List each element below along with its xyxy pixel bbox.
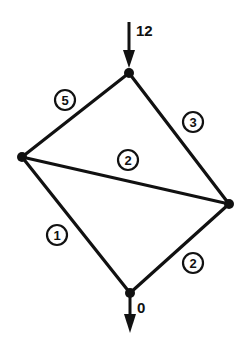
outflow-label: 0 bbox=[137, 299, 145, 316]
inflow-label: 12 bbox=[136, 22, 153, 39]
node-left bbox=[17, 152, 27, 162]
svg-text:3: 3 bbox=[189, 115, 196, 130]
svg-text:1: 1 bbox=[53, 228, 60, 243]
node-right bbox=[224, 199, 234, 209]
edge-top-left bbox=[22, 73, 129, 157]
edge-label-left-right: 2 bbox=[118, 150, 138, 170]
inflow-arrow bbox=[123, 22, 135, 68]
svg-text:2: 2 bbox=[189, 256, 196, 271]
edge-label-left-bottom: 1 bbox=[47, 225, 67, 245]
outflow-arrow bbox=[124, 293, 136, 333]
flow-network-diagram: 12 0 5 3 2 1 2 bbox=[0, 0, 244, 348]
edge-label-top-right: 3 bbox=[183, 112, 203, 132]
edge-right-bottom bbox=[130, 204, 229, 293]
svg-text:2: 2 bbox=[124, 153, 131, 168]
edge-label-top-left: 5 bbox=[55, 90, 75, 110]
node-top bbox=[124, 68, 134, 78]
node-bottom bbox=[125, 288, 135, 298]
edge-label-right-bottom: 2 bbox=[183, 253, 203, 273]
svg-text:5: 5 bbox=[61, 93, 68, 108]
